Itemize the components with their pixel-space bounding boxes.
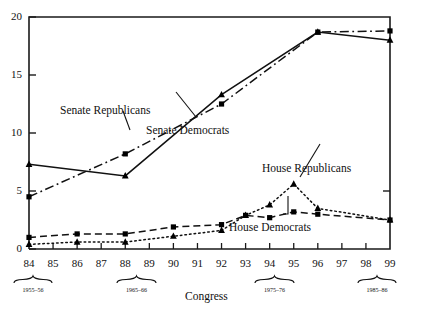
series-label-house-democrats: House Democrats: [229, 221, 311, 233]
x-axis-tick-label: 90: [163, 257, 183, 269]
series-label-senate-democrats: Senate Democrats: [146, 124, 229, 136]
x-axis-tick-label: 93: [236, 257, 256, 269]
x-axis-tick-label: 87: [91, 257, 111, 269]
x-axis-tick-label: 98: [356, 257, 376, 269]
era-bracket-1965-66: [117, 276, 156, 283]
y-axis-tick-label: 10: [0, 126, 22, 138]
y-axis-tick-label: 5: [0, 184, 22, 196]
era-bracket-label: 1955–56: [13, 287, 53, 293]
x-axis-tick-label: 88: [115, 257, 135, 269]
x-axis-tick-label: 86: [67, 257, 87, 269]
era-bracket-1975-76: [255, 276, 294, 283]
data-point-senate-republicans: [219, 101, 224, 106]
data-point-senate-republicans: [387, 28, 392, 33]
x-axis-tick-label: 97: [332, 257, 352, 269]
chart-figure: 0510152084858687888990919293949596979899…: [0, 0, 421, 309]
x-axis-tick-label: 91: [187, 257, 207, 269]
x-axis-tick-label: 92: [212, 257, 232, 269]
series-label-senate-republicans: Senate Republicans: [60, 104, 150, 116]
data-point-senate-republicans: [123, 151, 128, 156]
data-point-house-democrats: [219, 222, 224, 227]
data-point-house-democrats: [291, 209, 296, 214]
y-axis-tick-label: 20: [0, 10, 22, 22]
x-axis-tick-label: 94: [260, 257, 280, 269]
data-point-house-republicans: [26, 241, 33, 247]
era-bracket-label: 1985–86: [357, 287, 397, 293]
series-line-house-republicans: [29, 184, 390, 244]
data-point-house-republicans: [266, 201, 273, 207]
x-axis-tick-label: 84: [19, 257, 39, 269]
leader-senate-democrats: [176, 92, 196, 117]
data-point-house-republicans: [218, 227, 225, 233]
era-bracket-1985-86: [358, 276, 396, 283]
x-axis-label: Congress: [185, 290, 228, 302]
era-bracket-label: 1965–66: [117, 287, 157, 293]
data-point-house-democrats: [26, 235, 31, 240]
data-point-senate-republicans: [26, 194, 31, 199]
leader-house-democrats: [283, 196, 288, 214]
x-axis-tick-label: 96: [308, 257, 328, 269]
era-bracket-1955-56: [14, 276, 52, 283]
data-point-senate-democrats: [218, 91, 225, 97]
x-axis-tick-label: 99: [380, 257, 400, 269]
data-point-house-democrats: [387, 217, 392, 222]
data-point-senate-democrats: [26, 160, 33, 166]
data-point-house-republicans: [290, 180, 297, 186]
series-label-house-republicans: House Republicans: [262, 162, 351, 174]
era-bracket-label: 1975–76: [255, 287, 295, 293]
y-axis-tick-label: 0: [0, 242, 22, 254]
x-axis-tick-label: 95: [284, 257, 304, 269]
x-axis-tick-label: 85: [43, 257, 63, 269]
data-point-house-democrats: [267, 215, 272, 220]
data-point-house-democrats: [75, 231, 80, 236]
data-point-house-democrats: [171, 224, 176, 229]
y-axis-tick-label: 15: [0, 68, 22, 80]
data-point-house-democrats: [315, 212, 320, 217]
x-axis-tick-label: 89: [139, 257, 159, 269]
data-point-house-democrats: [123, 231, 128, 236]
data-point-house-democrats: [243, 213, 248, 218]
series-line-house-democrats: [29, 212, 390, 238]
